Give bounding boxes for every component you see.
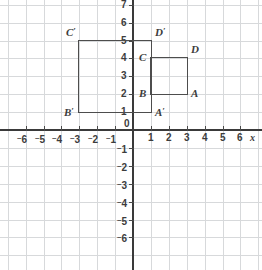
y-axis-tick xyxy=(129,166,134,167)
x-tick-label: –2 xyxy=(88,132,98,145)
y-axis-tick xyxy=(129,148,134,149)
x-axis-tick xyxy=(223,126,224,131)
vertex-label-a: A xyxy=(191,88,198,99)
x-tick-label: 5 xyxy=(220,132,226,143)
x-axis-tick xyxy=(115,126,116,131)
x-tick-label: 2 xyxy=(166,132,172,143)
x-axis-tick xyxy=(61,126,62,131)
vertex-label-b-prime: B′ xyxy=(64,106,74,118)
x-axis-tick xyxy=(205,126,206,131)
vertex-label-c: C xyxy=(139,52,146,63)
y-axis-tick xyxy=(129,23,134,24)
vertex-label-d: D xyxy=(191,44,199,55)
origin-label: 0 xyxy=(124,118,130,129)
x-tick-label: –5 xyxy=(35,132,45,145)
x-axis-tick xyxy=(26,126,27,131)
x-tick-label: 4 xyxy=(202,132,208,143)
y-tick-label: –6 xyxy=(117,231,127,244)
x-tick-label: –6 xyxy=(17,132,27,145)
y-axis-tick xyxy=(129,5,134,6)
y-tick-label: –2 xyxy=(117,160,127,173)
gridline-horizontal xyxy=(0,255,262,256)
y-tick-label: –1 xyxy=(117,142,127,155)
x-tick-label: 6 xyxy=(237,132,243,143)
y-tick-label: –5 xyxy=(117,214,127,227)
preimage-square xyxy=(150,57,188,95)
y-axis-tick xyxy=(129,237,134,238)
vertex-label-b: B xyxy=(139,88,146,99)
y-tick-label: –4 xyxy=(117,196,127,209)
y-axis-tick xyxy=(129,184,134,185)
y-tick-label: 7 xyxy=(121,0,127,10)
vertex-label-a-prime: A′ xyxy=(155,106,165,118)
y-axis-tick xyxy=(129,220,134,221)
x-tick-label: 3 xyxy=(184,132,190,143)
x-axis-tick xyxy=(97,126,98,131)
x-tick-label: –1 xyxy=(106,132,116,145)
y-axis-tick xyxy=(129,202,134,203)
x-axis-label: x xyxy=(250,132,255,143)
vertex-label-d-prime: D′ xyxy=(155,26,165,38)
x-axis-tick xyxy=(169,126,170,131)
x-tick-label: 1 xyxy=(148,132,154,143)
y-tick-label: 6 xyxy=(121,17,127,28)
x-axis-tick xyxy=(151,126,152,131)
x-tick-label: –4 xyxy=(52,132,62,145)
y-tick-label: –3 xyxy=(117,178,127,191)
x-axis-tick xyxy=(187,126,188,131)
x-axis-tick xyxy=(240,126,241,131)
vertex-label-c-prime: C′ xyxy=(66,26,76,38)
coordinate-plane-figure: –6–5–4–3–2–112345607654321–1–2–3–4–5–6 B… xyxy=(0,0,262,270)
x-axis-tick xyxy=(79,126,80,131)
x-axis-tick xyxy=(44,126,45,131)
x-tick-label: –3 xyxy=(70,132,80,145)
